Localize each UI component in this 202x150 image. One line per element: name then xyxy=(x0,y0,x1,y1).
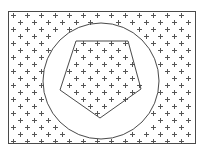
cross-marker xyxy=(151,13,156,18)
cross-marker xyxy=(144,34,149,39)
cross-marker xyxy=(186,20,191,25)
cross-marker xyxy=(25,97,30,102)
cross-marker xyxy=(18,20,23,25)
cross-marker xyxy=(186,90,191,95)
cross-marker xyxy=(165,125,170,130)
cross-marker xyxy=(25,125,30,130)
middle-circle xyxy=(43,23,159,139)
cross-marker xyxy=(32,48,37,53)
cross-marker xyxy=(158,90,163,95)
cross-marker xyxy=(109,83,114,88)
cross-marker xyxy=(18,104,23,109)
cross-marker xyxy=(151,111,156,116)
cross-marker xyxy=(109,97,114,102)
cross-marker xyxy=(186,48,191,53)
cross-marker xyxy=(53,125,58,130)
inner-pentagon xyxy=(60,41,141,118)
cross-marker xyxy=(25,13,30,18)
cross-marker xyxy=(123,83,128,88)
cross-marker xyxy=(88,62,93,67)
cross-marker xyxy=(25,41,30,46)
cross-marker xyxy=(123,41,128,46)
cross-marker xyxy=(116,76,121,81)
cross-marker xyxy=(11,13,16,18)
cross-marker xyxy=(172,76,177,81)
cross-marker xyxy=(179,83,184,88)
cross-marker xyxy=(95,13,100,18)
cross-marker xyxy=(81,83,86,88)
cross-marker xyxy=(46,34,51,39)
cross-marker xyxy=(158,132,163,137)
cross-marker xyxy=(158,20,163,25)
cross-marker xyxy=(186,34,191,39)
cross-marker xyxy=(186,62,191,67)
cross-marker xyxy=(53,27,58,32)
cross-marker xyxy=(116,48,121,53)
cross-marker xyxy=(165,83,170,88)
cross-marker xyxy=(81,41,86,46)
cross-marker xyxy=(74,90,79,95)
cross-marker xyxy=(102,62,107,67)
cross-marker xyxy=(151,125,156,130)
cross-marker xyxy=(165,13,170,18)
cross-marker xyxy=(116,90,121,95)
cross-marker xyxy=(32,76,37,81)
cross-marker xyxy=(60,132,65,137)
cross-marker xyxy=(151,27,156,32)
cross-marker xyxy=(67,83,72,88)
cross-marker xyxy=(109,13,114,18)
cross-marker xyxy=(158,48,163,53)
cross-marker xyxy=(95,69,100,74)
cross-marker xyxy=(172,104,177,109)
cross-marker xyxy=(172,62,177,67)
cross-marker xyxy=(137,13,142,18)
cross-marker xyxy=(179,27,184,32)
cross-marker xyxy=(67,13,72,18)
cross-marker xyxy=(81,55,86,60)
cross-marker xyxy=(74,62,79,67)
cross-marker xyxy=(172,132,177,137)
cross-marker xyxy=(130,20,135,25)
cross-marker xyxy=(32,34,37,39)
cross-marker xyxy=(18,34,23,39)
cross-marker xyxy=(144,132,149,137)
cross-marker xyxy=(88,90,93,95)
cross-marker xyxy=(88,48,93,53)
cross-marker xyxy=(151,41,156,46)
evenodd-fill-diagram xyxy=(0,0,202,150)
cross-marker xyxy=(109,41,114,46)
cross-marker xyxy=(39,41,44,46)
cross-marker xyxy=(67,69,72,74)
cross-marker xyxy=(186,104,191,109)
cross-marker xyxy=(81,97,86,102)
cross-marker xyxy=(165,69,170,74)
cross-marker xyxy=(25,111,30,116)
cross-marker xyxy=(18,118,23,123)
cross-marker xyxy=(18,90,23,95)
cross-marker xyxy=(179,97,184,102)
cross-marker xyxy=(130,76,135,81)
cross-marker xyxy=(74,20,79,25)
cross-marker xyxy=(172,90,177,95)
cross-marker xyxy=(116,62,121,67)
cross-marker xyxy=(95,83,100,88)
cross-marker xyxy=(123,69,128,74)
cross-marker xyxy=(130,132,135,137)
cross-marker xyxy=(172,20,177,25)
cross-marker xyxy=(165,111,170,116)
cross-marker xyxy=(102,76,107,81)
cross-marker xyxy=(11,97,16,102)
cross-marker xyxy=(60,20,65,25)
cross-marker xyxy=(32,118,37,123)
cross-marker xyxy=(109,69,114,74)
cross-marker xyxy=(11,125,16,130)
cross-marker xyxy=(39,111,44,116)
cross-marker xyxy=(186,132,191,137)
cross-marker xyxy=(179,41,184,46)
cross-marker xyxy=(179,111,184,116)
cross-marker xyxy=(144,20,149,25)
cross-marker xyxy=(123,13,128,18)
cross-marker xyxy=(158,34,163,39)
cross-marker xyxy=(39,13,44,18)
cross-marker xyxy=(74,76,79,81)
